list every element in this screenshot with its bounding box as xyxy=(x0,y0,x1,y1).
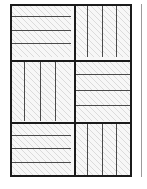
plank xyxy=(74,105,131,120)
plank xyxy=(116,4,130,57)
block-top-left xyxy=(10,4,71,57)
separator-horizontal-lower xyxy=(10,122,132,124)
plank xyxy=(74,74,131,89)
figure-root xyxy=(0,0,147,189)
neighbor-figure-edge xyxy=(141,4,142,177)
plank xyxy=(10,148,71,162)
plank xyxy=(24,60,39,121)
plank xyxy=(102,4,116,57)
plank xyxy=(10,162,71,176)
plank xyxy=(10,43,71,56)
plank xyxy=(87,122,101,176)
block-bottom-left xyxy=(10,122,71,176)
plank xyxy=(10,4,71,16)
plank xyxy=(10,135,71,149)
plank xyxy=(116,122,130,176)
block-top-right xyxy=(74,4,131,57)
block-middle-right xyxy=(74,60,131,121)
separator-vertical-center xyxy=(74,4,76,177)
plank xyxy=(102,122,116,176)
plank xyxy=(87,4,101,57)
plank xyxy=(10,60,24,121)
block-middle-left xyxy=(10,60,71,121)
tile-frame-outline xyxy=(10,4,132,177)
plank xyxy=(40,60,55,121)
plank xyxy=(74,90,131,105)
separator-horizontal-upper xyxy=(10,60,132,62)
plank xyxy=(10,16,71,29)
block-bottom-right xyxy=(74,122,131,176)
plank xyxy=(10,30,71,43)
plank xyxy=(55,60,70,121)
